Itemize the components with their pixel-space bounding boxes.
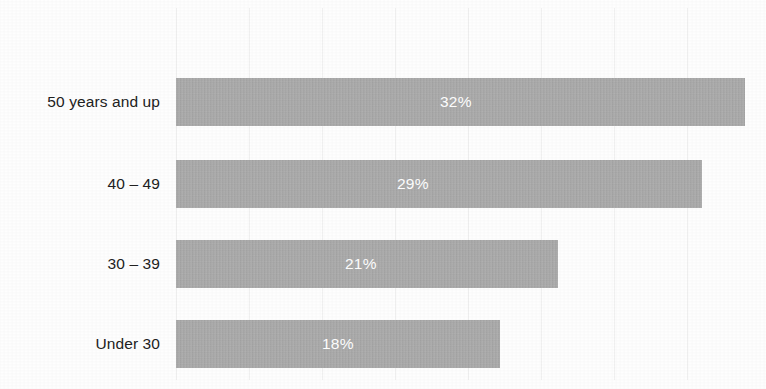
bar [176, 160, 702, 208]
bar-row: Under 30 18% [0, 320, 766, 368]
category-label: 30 – 39 [0, 240, 160, 288]
bar-row: 40 – 49 29% [0, 160, 766, 208]
bar-value-label: 32% [440, 78, 472, 126]
bar-chart: 50 years and up 32% 40 – 49 29% 30 – 39 … [0, 0, 766, 389]
bar-row: 30 – 39 21% [0, 240, 766, 288]
bar-value-label: 29% [397, 160, 429, 208]
category-label: Under 30 [0, 320, 160, 368]
bar-value-label: 18% [322, 320, 354, 368]
category-label: 50 years and up [0, 78, 160, 126]
bar-row: 50 years and up 32% [0, 78, 766, 126]
bar-value-label: 21% [345, 240, 377, 288]
category-label: 40 – 49 [0, 160, 160, 208]
plot-area: 50 years and up 32% 40 – 49 29% 30 – 39 … [0, 0, 766, 389]
